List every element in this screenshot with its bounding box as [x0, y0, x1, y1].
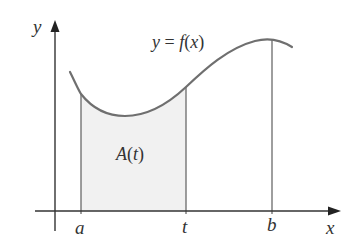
tick-label-b: b: [267, 215, 277, 234]
x-axis-arrow-icon: [328, 207, 341, 216]
area-label-close-paren: ): [138, 144, 144, 164]
y-axis-label: y: [33, 17, 41, 36]
y-axis-arrow-icon: [51, 20, 60, 32]
tick-label-t: t: [182, 217, 187, 236]
curve-label-equals: =: [160, 32, 179, 52]
curve-label-arg: x: [190, 32, 198, 52]
area-label: A(t): [116, 145, 144, 163]
curve-label: y = f(x): [152, 33, 204, 51]
x-axis-label: x: [326, 218, 334, 237]
curve-label-lhs: y: [152, 32, 160, 52]
curve-label-close-paren: ): [198, 32, 204, 52]
tick-label-a: a: [75, 218, 85, 237]
area-function-diagram: y x y = f(x) A(t) a t b: [0, 0, 350, 246]
area-label-func: A: [116, 144, 127, 164]
